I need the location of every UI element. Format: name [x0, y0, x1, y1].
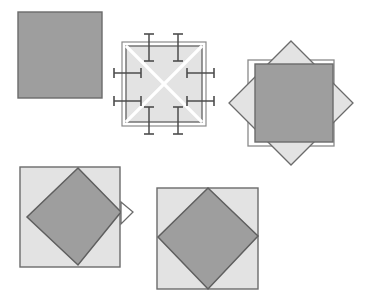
- figure-2-crossed-square-with-ticks: [114, 34, 214, 134]
- solid-square-shape: [18, 12, 102, 98]
- dark-overlay-square: [255, 64, 333, 142]
- figure-3-diamond-behind-square-overlay: [229, 41, 353, 165]
- figure-4-inscribed-diamond-with-tab: [20, 167, 133, 267]
- diagram-canvas: [0, 0, 366, 297]
- figure-1-solid-gray-square: [18, 12, 102, 98]
- figure-5-inscribed-diamond-square: [157, 188, 258, 289]
- shape-diagram-svg: [0, 0, 366, 297]
